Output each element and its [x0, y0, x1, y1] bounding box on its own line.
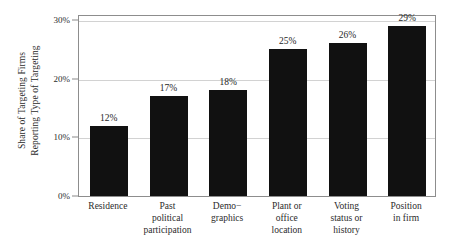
- y-tick-mark: [72, 137, 78, 138]
- gridline: [79, 21, 435, 22]
- x-tick-label: Demo−graphics: [211, 200, 243, 224]
- x-tick-label-line: Plant or: [272, 200, 303, 212]
- bar: [269, 49, 307, 196]
- x-tick-label: Votingstatus orhistory: [331, 200, 363, 236]
- chart-screenshot: Share of Targeting Firms Reporting Type …: [0, 0, 453, 249]
- y-tick-label: 10%: [44, 132, 70, 142]
- x-tick-label-line: history: [331, 224, 363, 236]
- x-tick-label-line: participation: [143, 224, 191, 236]
- bar: [150, 96, 188, 196]
- x-tick-label: Residence: [88, 200, 127, 212]
- x-axis-tick-labels: ResidencePastpoliticalparticipationDemo−…: [78, 200, 436, 249]
- x-tick-label-line: political: [143, 212, 191, 224]
- gridline: [79, 80, 435, 81]
- y-tick-label: 30%: [44, 15, 70, 25]
- y-tick-mark: [72, 78, 78, 79]
- bar: [90, 126, 128, 196]
- y-tick-label: 0%: [44, 191, 70, 201]
- y-tick-mark: [72, 20, 78, 21]
- y-axis-title-line-2: Reporting Type of Targeting: [28, 45, 41, 155]
- x-tick-label: Plant orofficelocation: [272, 200, 303, 236]
- x-tick-label-line: Residence: [88, 200, 127, 212]
- bar-value-label: 26%: [339, 30, 356, 40]
- gridline: [79, 138, 435, 139]
- x-tick-label-line: graphics: [211, 212, 243, 224]
- y-axis-title-line-1: Share of Targeting Firms: [16, 45, 29, 155]
- y-tick-mark: [72, 196, 78, 197]
- x-tick-label-line: status or: [331, 212, 363, 224]
- x-tick-label-line: office: [272, 212, 303, 224]
- bar-value-label: 18%: [219, 77, 236, 87]
- bar: [329, 43, 367, 196]
- x-tick-label: Positionin firm: [391, 200, 422, 224]
- x-tick-label-line: Past: [143, 200, 191, 212]
- bar-value-label: 29%: [398, 13, 415, 23]
- x-tick-label-line: Position: [391, 200, 422, 212]
- x-tick-label: Pastpoliticalparticipation: [143, 200, 191, 236]
- y-axis-tick-labels: 0%10%20%30%: [44, 0, 70, 249]
- bar-value-label: 25%: [279, 36, 296, 46]
- plot-area: 12%17%18%25%26%29%: [78, 15, 436, 197]
- x-tick-label-line: in firm: [391, 212, 422, 224]
- x-tick-label-line: Demo−: [211, 200, 243, 212]
- y-tick-label: 20%: [44, 74, 70, 84]
- bar: [388, 26, 426, 196]
- x-tick-label-line: location: [272, 224, 303, 236]
- bar: [209, 90, 247, 196]
- bar-value-label: 17%: [160, 83, 177, 93]
- bar-value-label: 12%: [100, 113, 117, 123]
- x-tick-label-line: Voting: [331, 200, 363, 212]
